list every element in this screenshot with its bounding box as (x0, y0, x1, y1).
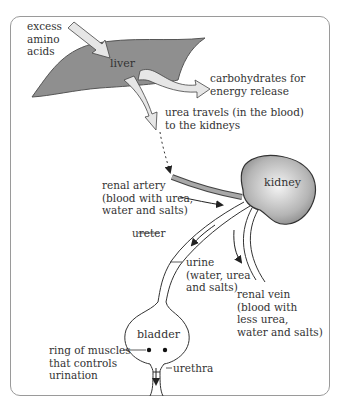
kidney-shape (241, 156, 315, 225)
bladder-label: bladder (137, 328, 180, 341)
excess-amino-acids-label: excess amino acids (27, 20, 62, 58)
sphincter-right (163, 348, 167, 352)
sphincter-left (147, 348, 151, 352)
blood-path (160, 132, 170, 172)
renal-vein-label: renal vein (blood with less urea, water … (237, 288, 323, 338)
urethra (150, 372, 153, 396)
kidney-label: kidney (264, 176, 301, 189)
liver-label: liver (110, 57, 135, 70)
sphincter-label: ring of muscles that controls urination (49, 344, 131, 382)
renal-artery-label: renal artery (blood with urea, water and… (102, 179, 193, 217)
urethra-label: urethra (173, 362, 213, 375)
carbohydrates-label: carbohydrates for energy release (210, 72, 305, 97)
ureter-label: ureter (132, 227, 165, 240)
urea-travels-label: urea travels (in the blood) to the kidne… (165, 106, 304, 131)
